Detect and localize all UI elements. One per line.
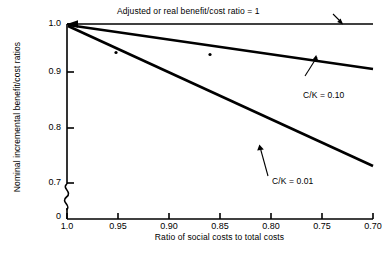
x-tick-label-0.70: 0.70 <box>353 221 388 231</box>
y-tick-label-0.7: 0.7 <box>33 177 61 187</box>
annotation-ck-010: C/K = 0.10 <box>303 90 344 100</box>
x-tick-marks <box>67 213 373 219</box>
x-tick-label-0.80: 0.80 <box>251 221 291 231</box>
y-axis-label: Nominal incremental benefit/cost ratios <box>12 17 22 217</box>
y-tick-label-0.9: 0.9 <box>33 66 61 76</box>
y-tick-label-0.8: 0.8 <box>33 122 61 132</box>
x-tick-label-0.95: 0.95 <box>98 221 138 231</box>
leader-ck-010 <box>305 55 318 76</box>
annotation-ratio-equals-1: Adjusted or real benefit/cost ratio = 1 <box>117 6 260 16</box>
marker-ck-010-b <box>208 53 211 56</box>
x-tick-label-0.75: 0.75 <box>302 221 342 231</box>
x-axis-label: Ratio of social costs to total costs <box>67 232 372 242</box>
x-tick-label-0.85: 0.85 <box>200 221 240 231</box>
leader-ck-001 <box>257 145 268 177</box>
y-axis-break-squiggle <box>65 184 69 210</box>
y-tick-label-0: 0 <box>33 211 61 221</box>
marker-ck-010-a <box>114 51 117 54</box>
leader-top-annotation <box>333 14 343 25</box>
y-tick-marks <box>67 24 74 183</box>
x-tick-label-1.0: 1.0 <box>47 221 87 231</box>
y-tick-label-1.0: 1.0 <box>33 18 61 28</box>
annotation-ck-001: C/K = 0.01 <box>272 176 313 186</box>
x-tick-label-0.90: 0.90 <box>149 221 189 231</box>
